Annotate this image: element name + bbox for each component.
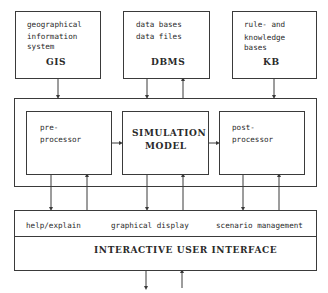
postprocessor-box: post- processor [219,111,305,175]
dbms-box: data bases data files DBMS [123,11,210,79]
dbms-line-1: data bases [136,19,182,30]
gis-box: geographical information system GIS [15,11,101,79]
ui-function-help-explain: help/explain [26,220,81,231]
simulation-model-line-1: SIMULATION [132,128,206,138]
user-interface-box: help/explain graphical display scenario … [14,210,317,271]
preprocessor-line-2: processor [40,134,81,145]
ui-function-graphical-display: graphical display [111,220,189,231]
dbms-line-2: data files [136,31,182,42]
ui-divider [15,236,316,237]
preprocessor-box: pre- processor [26,111,112,175]
dbms-acronym: DBMS [151,57,185,67]
simulation-model-box: SIMULATION MODEL [122,111,209,175]
preprocessor-line-1: pre- [40,122,58,133]
kb-box: rule- and knowledge bases KB [232,11,317,79]
kb-line-3: bases [244,42,267,53]
gis-line-3: system [27,41,54,52]
architecture-diagram: geographical information system GIS data… [0,0,328,293]
kb-acronym: KB [263,57,280,67]
simulation-model-line-2: MODEL [145,141,187,151]
kb-line-1: rule- and [244,19,285,30]
ui-function-scenario-management: scenario management [216,220,303,231]
postprocessor-line-2: processor [232,134,273,145]
ui-title: INTERACTIVE USER INTERFACE [94,245,277,255]
gis-line-1: geographical [27,19,82,30]
gis-acronym: GIS [46,57,66,67]
postprocessor-line-1: post- [232,122,255,133]
